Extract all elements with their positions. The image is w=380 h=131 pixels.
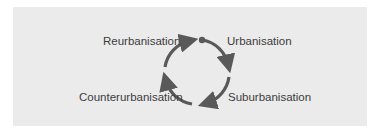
stage-label-urbanisation: Urbanisation	[227, 36, 292, 48]
stage-label-reurbanisation: Reurbanisation	[103, 36, 180, 48]
stage-label-suburbanisation: Suburbanisation	[228, 92, 311, 104]
arrow-suburbanisation-to-counterurbanisation	[207, 77, 229, 103]
arrow-urbanisation-to-suburbanisation	[203, 40, 228, 64]
stage-label-counterurbanisation: Counterurbanisation	[79, 92, 183, 104]
cycle-arrows	[0, 0, 380, 131]
